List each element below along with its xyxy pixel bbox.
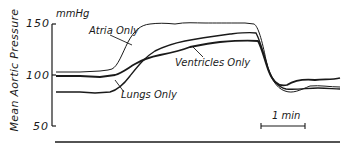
- y-tick-50: 50: [33, 121, 49, 132]
- y-tick-100: 100: [26, 70, 50, 81]
- aortic-pressure-chart: mmHg 150 100 50 Mean Aortic Pressure Atr…: [0, 0, 354, 154]
- time-scale-bar: [261, 123, 305, 129]
- label-lungs-only: Lungs Only: [121, 90, 177, 100]
- y-unit-label: mmHg: [56, 9, 89, 19]
- y-axis: [52, 24, 56, 126]
- y-tick-150: 150: [26, 18, 50, 29]
- label-atria-only: Atria Only: [89, 26, 139, 36]
- scale-bar-label: 1 min: [272, 111, 300, 121]
- chart-canvas: [0, 0, 354, 154]
- label-ventricles-only: Ventricles Only: [175, 58, 250, 68]
- y-axis-title: Mean Aortic Pressure: [8, 22, 21, 132]
